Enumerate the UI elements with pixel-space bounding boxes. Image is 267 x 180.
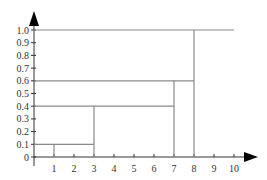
x-tick-label: 9 — [212, 163, 217, 174]
y-tick-label: 0.5 — [17, 88, 30, 99]
y-tick-label: 0.3 — [17, 113, 30, 124]
x-tick-label: 2 — [72, 163, 77, 174]
y-tick-label: 1.0 — [17, 25, 30, 36]
y-tick-label: 0.8 — [17, 50, 30, 61]
x-tick-label: 6 — [152, 163, 157, 174]
y-tick-label: 0.9 — [17, 37, 30, 48]
y-tick-label: 0.7 — [17, 63, 30, 74]
y-ticks: 00.10.20.30.40.50.60.70.80.91.0 — [17, 25, 37, 163]
y-tick-label: 0.6 — [17, 75, 30, 86]
y-tick-label: 0.1 — [17, 139, 30, 150]
x-tick-label: 5 — [132, 163, 137, 174]
x-axis-arrow-icon — [244, 152, 258, 162]
x-tick-label: 4 — [112, 163, 117, 174]
y-tick-label: 0.2 — [17, 126, 30, 137]
x-tick-label: 10 — [229, 163, 239, 174]
step-chart: 12345678910 00.10.20.30.40.50.60.70.80.9… — [0, 0, 267, 180]
x-tick-label: 8 — [192, 163, 197, 174]
y-tick-label: 0 — [24, 152, 29, 163]
x-tick-label: 3 — [92, 163, 97, 174]
x-tick-label: 7 — [172, 163, 177, 174]
axes — [29, 11, 258, 166]
step-lines — [34, 30, 234, 157]
y-axis-arrow-icon — [29, 11, 39, 26]
y-tick-label: 0.4 — [17, 101, 30, 112]
x-tick-label: 1 — [52, 163, 57, 174]
